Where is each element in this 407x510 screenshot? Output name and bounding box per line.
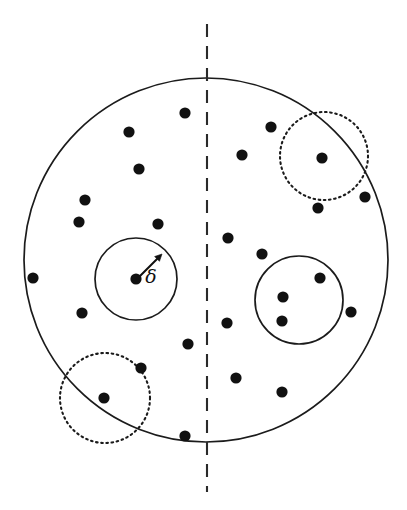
data-point [316,152,327,163]
data-point [123,126,134,137]
data-point [98,392,109,403]
delta-radius-label: δ [145,265,156,287]
data-point [73,216,84,227]
data-point [312,202,323,213]
figure-canvas: δ [0,0,407,510]
data-point [27,272,38,283]
data-point [236,149,247,160]
data-point [79,194,90,205]
points-layer [27,107,370,441]
data-point [221,317,232,328]
data-point [276,315,287,326]
cluster-circle-right [255,256,343,344]
data-point [182,338,193,349]
data-point [345,306,356,317]
data-point [265,121,276,132]
data-point [135,362,146,373]
data-point [222,232,233,243]
data-point [359,191,370,202]
radius-annotation-layer: δ [137,254,162,287]
data-point [179,107,190,118]
data-point [276,386,287,397]
data-point [256,248,267,259]
data-point [179,430,190,441]
data-point [314,272,325,283]
data-point [230,372,241,383]
data-point [152,218,163,229]
data-point [133,163,144,174]
diagram-svg: δ [0,0,407,510]
data-point [76,307,87,318]
data-point [277,291,288,302]
